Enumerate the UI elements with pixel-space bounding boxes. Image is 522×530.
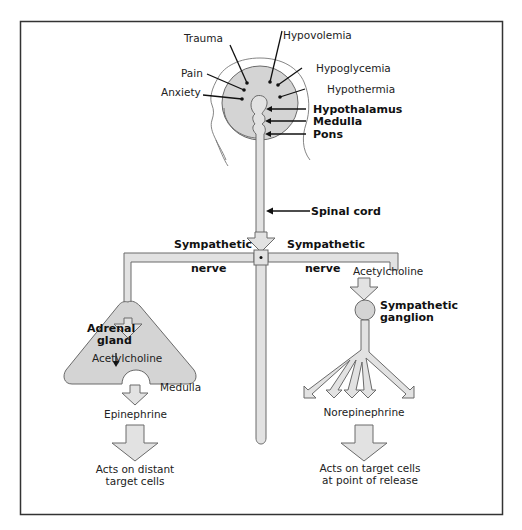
label-right-effect-2: at point of release [322,474,418,486]
label-left-effect-1: Acts on distant [96,463,175,475]
spinal-cord [256,259,266,444]
label-pons: Pons [313,128,343,141]
label-left-acetylcholine: Acetylcholine [92,352,162,364]
label-right-nerve: nerve [305,262,340,275]
label-right-effect-1: Acts on target cells [320,462,421,474]
label-pain: Pain [181,67,203,79]
label-epinephrine: Epinephrine [104,408,167,420]
label-spinal-cord: Spinal cord [311,205,381,218]
sympathetic-pathway-diagram: Trauma Hypovolemia Hypoglycemia Hypother… [0,0,522,530]
label-hypovolemia: Hypovolemia [283,29,352,41]
ganglion-circle [355,300,375,320]
label-norepinephrine: Norepinephrine [323,406,404,418]
label-gland: gland [97,334,132,347]
label-left-sympathetic: Sympathetic [174,238,252,251]
label-left-nerve: nerve [191,262,226,275]
label-ganglion-2: ganglion [380,311,434,324]
label-hypoglycemia: Hypoglycemia [316,62,391,74]
label-medulla: Medulla [313,115,362,128]
label-adrenal-medulla: Medulla [160,381,201,393]
label-trauma: Trauma [183,32,223,44]
label-hypothermia: Hypothermia [327,83,395,95]
label-right-acetylcholine: Acetylcholine [353,265,423,277]
label-anxiety: Anxiety [161,86,201,98]
label-left-effect-2: target cells [106,475,165,487]
label-right-sympathetic: Sympathetic [287,238,365,251]
